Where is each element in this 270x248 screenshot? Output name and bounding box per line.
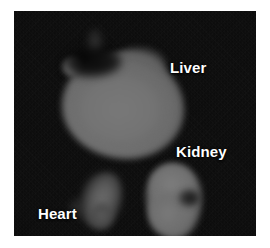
kidney-signal-blob bbox=[146, 163, 202, 236]
liver-signal-blob bbox=[62, 53, 184, 159]
liver-notch-shadow bbox=[64, 45, 122, 77]
faint-signal-streak bbox=[86, 29, 104, 69]
kidney-hilum-shadow bbox=[178, 189, 200, 207]
annotation-label-liver: Liver bbox=[170, 60, 206, 75]
heart-signal-blob bbox=[72, 166, 130, 234]
image-vignette bbox=[14, 11, 256, 236]
image-viewer: Liver Kidney Heart bbox=[0, 0, 270, 248]
annotation-label-kidney: Kidney bbox=[176, 144, 227, 159]
heart-signal-tip bbox=[90, 203, 114, 231]
kidney-upper-lobe bbox=[150, 165, 194, 205]
kidney-lower-lobe bbox=[148, 193, 190, 236]
sensor-noise-texture bbox=[14, 11, 256, 236]
fluorescence-image-panel: Liver Kidney Heart bbox=[14, 11, 256, 236]
liver-left-nub bbox=[62, 57, 84, 77]
liver-upper-lobe bbox=[110, 47, 166, 81]
annotation-label-heart: Heart bbox=[38, 206, 77, 221]
liver-signal-core bbox=[72, 67, 170, 149]
